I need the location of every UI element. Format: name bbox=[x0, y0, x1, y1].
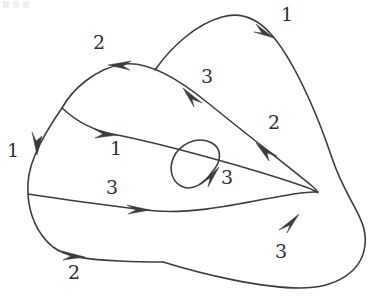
knot-diagram-svg bbox=[0, 0, 374, 297]
arc-label-top-left-2: 2 bbox=[93, 33, 105, 52]
arc-label-right-2: 2 bbox=[268, 113, 280, 132]
arrowhead-top-right bbox=[254, 24, 274, 38]
arc-label-loop-3: 3 bbox=[221, 168, 233, 187]
arc-label-bottom-right-3: 3 bbox=[275, 242, 287, 261]
diagram-canvas: 1 2 3 2 1 1 3 3 3 2 bbox=[0, 0, 374, 297]
arc-label-top-right-1: 1 bbox=[281, 5, 293, 24]
arc-left-outer bbox=[28, 108, 163, 262]
arc-label-bottom-left-2: 2 bbox=[68, 263, 80, 282]
arrowhead-top-left bbox=[108, 61, 131, 70]
arc-label-left-1: 1 bbox=[7, 141, 19, 160]
arrowhead-inner-loop bbox=[200, 167, 219, 187]
arrowhead-lower-chord bbox=[127, 205, 150, 214]
arrowhead-right-upper bbox=[256, 143, 277, 161]
arrowhead-bottom-left bbox=[62, 251, 85, 260]
arc-inner-loop bbox=[171, 140, 219, 188]
arc-label-lower-mid-3: 3 bbox=[106, 178, 118, 197]
arrowhead-bottom-right bbox=[279, 214, 299, 233]
arc-lower-chord bbox=[28, 192, 317, 212]
arc-label-mid-1: 1 bbox=[110, 139, 122, 158]
arc-label-upper-mid-3: 3 bbox=[201, 67, 213, 86]
